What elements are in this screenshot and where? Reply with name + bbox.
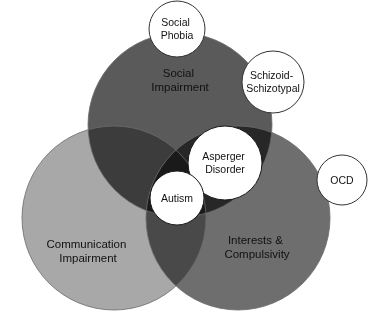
label-social-phobia-line1: Social — [161, 16, 190, 28]
label-autism: Autism — [161, 192, 193, 204]
label-schizoid-schizotypal: Schizoid- Schizotypal — [246, 69, 300, 94]
venn-diagram-root: Social Impairment Communication Impairme… — [0, 0, 374, 324]
label-social-impairment-line1: Social — [163, 67, 194, 79]
label-communication-impairment-line1: Communication — [46, 238, 126, 250]
label-autism-line1: Autism — [161, 192, 193, 204]
label-interests-compulsivity-line2: Compulsivity — [224, 248, 289, 260]
label-schizoid-schizotypal-line2: Schizotypal — [246, 82, 300, 94]
label-social-phobia-line2: Phobia — [161, 29, 194, 41]
label-interests-compulsivity-line1: Interests & — [228, 234, 283, 246]
label-schizoid-schizotypal-line1: Schizoid- — [250, 69, 294, 81]
label-communication-impairment-line2: Impairment — [59, 252, 117, 264]
label-asperger-disorder-line2: Disorder — [205, 163, 245, 175]
venn-diagram-canvas: Social Impairment Communication Impairme… — [0, 0, 374, 324]
label-ocd: OCD — [330, 174, 354, 186]
label-asperger-disorder: Asperger Disorder — [202, 150, 248, 175]
label-social-phobia: Social Phobia — [161, 16, 194, 41]
label-asperger-disorder-line1: Asperger — [202, 150, 245, 162]
label-social-impairment-line2: Impairment — [151, 81, 209, 93]
label-ocd-line1: OCD — [330, 174, 354, 186]
